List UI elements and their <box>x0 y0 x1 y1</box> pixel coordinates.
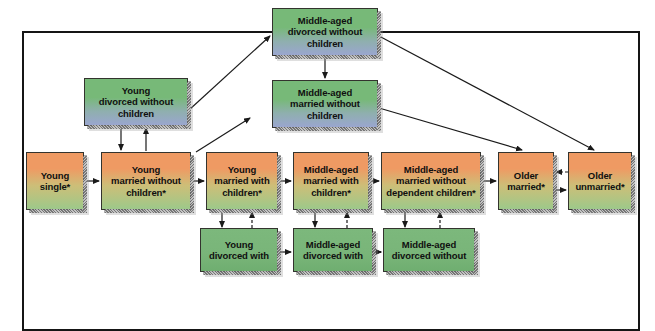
node-label: Young married without children* <box>105 164 187 199</box>
node-young-single[interactable]: Young single* <box>26 152 84 210</box>
node-label: Middle-aged divorced with <box>297 239 369 262</box>
node-label: Young divorced with <box>204 239 274 262</box>
node-older-married[interactable]: Older married* <box>498 152 554 210</box>
node-label: Middle-aged divorced without children <box>276 15 374 50</box>
node-middle-aged-divorced-without-children[interactable]: Middle-aged divorced without children <box>272 8 378 56</box>
node-label: Middle-aged married with children* <box>297 164 365 199</box>
node-older-unmarried[interactable]: Older unmarried* <box>568 152 632 210</box>
node-label: Older married* <box>502 170 550 193</box>
node-label: Middle-aged divorced without <box>387 239 471 262</box>
node-label: Young married with children* <box>210 164 274 199</box>
node-young-divorced-with-children[interactable]: Young divorced with <box>200 228 278 272</box>
node-young-married-without-children[interactable]: Young married without children* <box>101 152 191 210</box>
node-middle-aged-married-with-children[interactable]: Middle-aged married with children* <box>293 152 369 210</box>
node-label: Middle-aged married without children <box>276 87 374 122</box>
node-young-married-with-children[interactable]: Young married with children* <box>206 152 278 210</box>
node-label: Young divorced without children <box>88 85 184 120</box>
node-middle-aged-divorced-without-children-bottom[interactable]: Middle-aged divorced without <box>383 228 475 272</box>
node-label: Young single* <box>30 170 80 193</box>
node-young-divorced-without-children[interactable]: Young divorced without children <box>84 78 188 126</box>
node-middle-aged-married-without-children[interactable]: Middle-aged married without children <box>272 80 378 128</box>
node-label: Older unmarried* <box>572 170 628 193</box>
node-middle-aged-divorced-with-children[interactable]: Middle-aged divorced with <box>293 228 373 272</box>
node-label: Middle-aged married without dependent ch… <box>385 164 477 199</box>
node-middle-aged-married-without-dependent-children[interactable]: Middle-aged married without dependent ch… <box>381 152 481 210</box>
